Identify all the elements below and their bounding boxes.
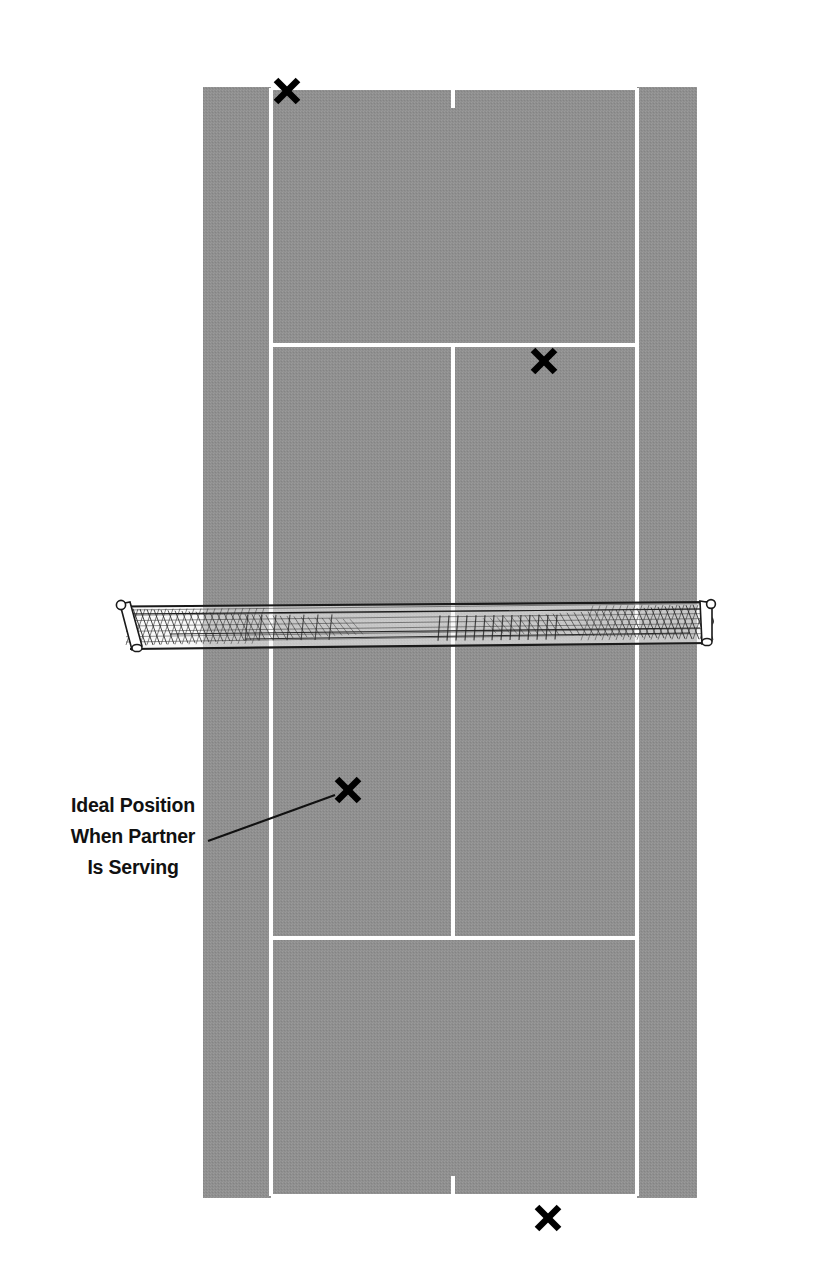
ideal-position-callout: Ideal PositionWhen PartnerIs Serving: [71, 794, 196, 878]
callout-line-1: Ideal Position: [71, 794, 195, 816]
callout-line-2: When Partner: [71, 825, 196, 847]
tennis-net: [116, 600, 720, 652]
tennis-court-diagram-page: Ideal PositionWhen PartnerIs Serving: [0, 0, 828, 1280]
callout-line-3: Is Serving: [87, 856, 178, 878]
court-figure: Ideal PositionWhen PartnerIs Serving: [0, 0, 828, 1280]
